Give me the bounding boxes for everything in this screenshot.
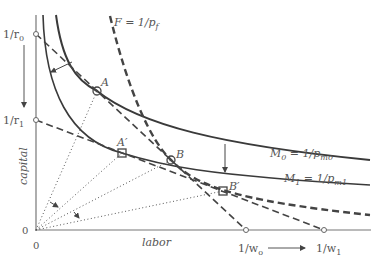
w0-marker [244, 228, 249, 233]
isoquant-diagram: A A′ B B′ 1/r0 1/r1 0 0 1/wo 1/w1 labor … [0, 0, 382, 260]
point-a-label: A [100, 76, 109, 89]
origin-x-label: 0 [33, 240, 39, 251]
y-axis-title: capital [17, 147, 30, 185]
r1-marker [34, 118, 39, 123]
point-b-label: B [175, 148, 184, 161]
factor-ratio-rays [36, 91, 223, 230]
x-axis-title: labor [142, 236, 172, 249]
point-a-prime-label: A′ [116, 136, 128, 149]
m0-curve-label: M0 = 1/pm0 [269, 147, 333, 162]
r0-marker [34, 32, 39, 37]
origin-y-label: 0 [22, 225, 28, 236]
y-tick-r1: 1/r1 [3, 114, 24, 129]
f-curve [110, 16, 370, 215]
m1-curve-label: M1 = 1/pm1 [283, 172, 347, 187]
y-tick-r0: 1/r0 [3, 28, 24, 43]
w1-marker [322, 228, 327, 233]
f-curve-label: F = 1/pf [113, 16, 161, 31]
budget-line-1 [36, 120, 324, 230]
x-tick-w1: 1/w1 [316, 242, 341, 257]
point-b-prime-label: B′ [228, 180, 240, 193]
shift-arrow-upper [51, 62, 72, 72]
x-tick-w0: 1/wo [238, 242, 263, 257]
